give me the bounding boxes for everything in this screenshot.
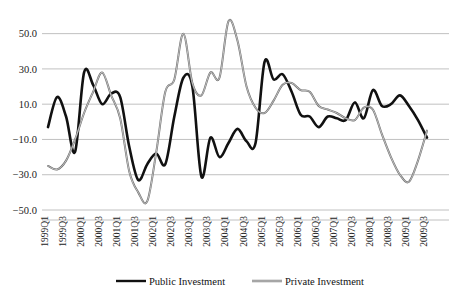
x-tick-label: 2007Q1 [329,216,339,247]
x-tick-label: 1999Q3 [58,216,68,247]
y-tick-label: −10.0 [13,134,37,145]
plot-area: 50.030.010.0−10.0−30.0−50.01999Q11999Q32… [0,0,450,298]
data-series-group [48,20,427,204]
gridlines [42,34,449,220]
x-tick-label: 2007Q3 [347,216,357,247]
x-tick-label: 2000Q1 [76,216,86,247]
investment-line-chart: 50.030.010.0−10.0−30.0−50.01999Q11999Q32… [0,0,450,298]
x-tick-label: 2008Q1 [365,216,375,247]
x-tick-label: 2003Q3 [202,216,212,247]
x-tick-label: 2006Q3 [311,216,321,247]
x-tick-label: 2001Q3 [130,216,140,247]
x-tick-label: 2005Q3 [275,216,285,247]
x-tick-label: 2004Q3 [239,216,249,247]
y-tick-label: 50.0 [19,28,37,39]
chart-legend: Public InvestmentPrivate Investment [116,276,364,287]
x-tick-label: 2009Q1 [401,216,411,247]
x-tick-label: 2008Q3 [383,216,393,247]
legend-label-public: Public Investment [149,276,225,287]
chart-canvas: 50.030.010.0−10.0−30.0−50.01999Q11999Q32… [0,0,450,298]
y-tick-label: −30.0 [13,169,37,180]
series-line-private-core [48,20,427,204]
x-tick-label: 1999Q1 [40,216,50,247]
y-tick-label: 30.0 [19,64,37,75]
x-tick-label: 2005Q1 [257,216,267,247]
x-tick-label: 2009Q3 [419,216,429,247]
y-axis-labels: 50.030.010.0−10.0−30.0−50.0 [13,28,37,215]
y-tick-label: −50.0 [13,205,37,216]
x-tick-label: 2002Q3 [166,216,176,247]
x-tick-label: 2006Q1 [293,216,303,247]
x-tick-label: 2001Q1 [112,216,122,247]
x-tick-label: 2004Q1 [220,216,230,247]
legend-label-private: Private Investment [285,276,364,287]
series-line-private-outline [48,20,427,204]
y-tick-label: 10.0 [19,99,37,110]
x-tick-label: 2000Q3 [94,216,104,247]
x-tick-label: 2002Q1 [148,216,158,247]
x-tick-label: 2003Q1 [184,216,194,247]
